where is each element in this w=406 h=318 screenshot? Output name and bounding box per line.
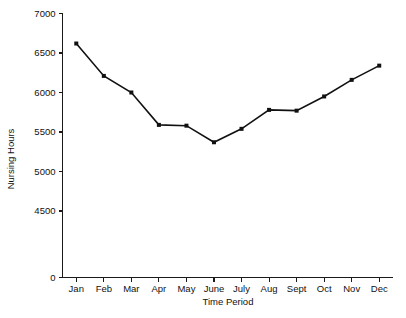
- data-point: [295, 109, 299, 113]
- series-markers: [74, 42, 381, 145]
- data-point: [350, 78, 354, 82]
- data-point: [184, 124, 188, 128]
- data-point: [74, 42, 78, 46]
- chart-canvas: 0450050005500600065007000 JanFebMarAprMa…: [0, 0, 406, 318]
- data-point: [322, 94, 326, 98]
- data-point: [129, 91, 133, 95]
- data-point: [212, 140, 216, 144]
- y-tick-label: 7000: [34, 8, 55, 19]
- x-tick-label: May: [177, 283, 195, 294]
- x-tick-label: Jan: [69, 283, 84, 294]
- data-point: [267, 108, 271, 112]
- x-tick-label: July: [233, 283, 250, 294]
- x-tick-label: Nov: [343, 283, 360, 294]
- y-tick-label: 0: [50, 272, 55, 283]
- line-chart: 0450050005500600065007000 JanFebMarAprMa…: [0, 0, 406, 318]
- y-tick-label: 5000: [34, 166, 55, 177]
- x-tick-label: Apr: [151, 283, 166, 294]
- x-tick-label: Dec: [371, 283, 388, 294]
- x-tick-label: Feb: [96, 283, 112, 294]
- x-tick-label: Mar: [123, 283, 139, 294]
- x-axis-ticks: JanFebMarAprMayJuneJulyAugSeptOctNovDec: [69, 278, 388, 295]
- y-axis-ticks: 0450050005500600065007000: [34, 8, 62, 283]
- y-axis-title: Nursing Hours: [5, 128, 16, 189]
- y-tick-label: 6500: [34, 47, 55, 58]
- x-tick-label: Aug: [261, 283, 278, 294]
- data-point: [377, 64, 381, 68]
- data-point: [240, 127, 244, 131]
- x-tick-label: Sept: [287, 283, 307, 294]
- data-point: [102, 74, 106, 78]
- x-tick-label: Oct: [317, 283, 332, 294]
- y-tick-label: 4500: [34, 205, 55, 216]
- data-point: [157, 123, 161, 127]
- x-axis-title: Time Period: [203, 296, 254, 307]
- x-tick-label: June: [204, 283, 225, 294]
- y-tick-label: 6000: [34, 87, 55, 98]
- series-line-nursing-hours: [76, 44, 379, 143]
- y-tick-label: 5500: [34, 126, 55, 137]
